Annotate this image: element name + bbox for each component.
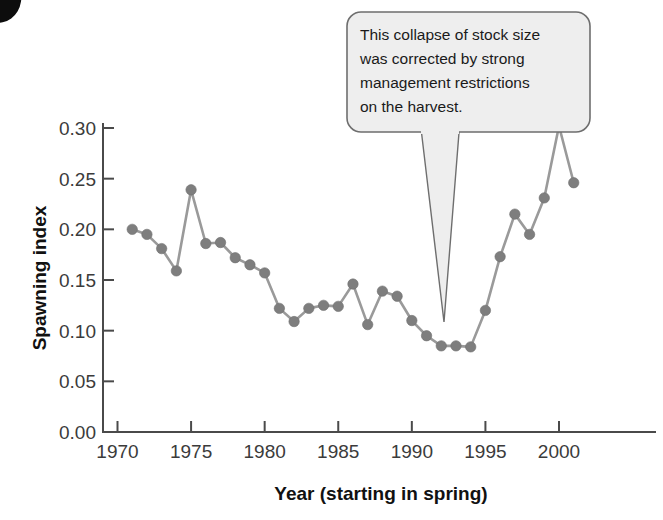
- x-tick-label: 1975: [170, 441, 212, 462]
- y-tick-label: 0.00: [59, 422, 96, 443]
- data-point: [156, 243, 166, 253]
- data-point: [171, 266, 181, 276]
- callout-tail: [420, 120, 460, 322]
- data-point: [407, 315, 417, 325]
- data-point: [377, 286, 387, 296]
- x-axis-tick-labels: 1970197519801985199019952000: [96, 441, 580, 462]
- data-point: [318, 300, 328, 310]
- data-series-markers: [127, 121, 579, 352]
- data-point: [421, 331, 431, 341]
- data-point: [259, 268, 269, 278]
- data-point: [451, 341, 461, 351]
- x-tick-label: 2000: [538, 441, 580, 462]
- y-axis-tick-labels: 0.000.050.100.150.200.250.30: [59, 118, 96, 443]
- data-point: [466, 342, 476, 352]
- data-point: [480, 305, 490, 315]
- x-tick-label: 1970: [96, 441, 138, 462]
- data-point: [348, 279, 358, 289]
- data-point: [362, 319, 372, 329]
- data-point: [274, 303, 284, 313]
- data-point: [569, 178, 579, 188]
- data-point: [524, 229, 534, 239]
- data-series-line: [132, 126, 573, 347]
- x-tick-label: 1995: [464, 441, 506, 462]
- data-point: [289, 316, 299, 326]
- x-tick-label: 1990: [391, 441, 433, 462]
- callout-text-line: was corrected by strong: [359, 50, 525, 67]
- line-chart: 0.000.050.100.150.200.250.30 19701975198…: [0, 0, 663, 520]
- data-point: [304, 303, 314, 313]
- x-tick-label: 1980: [244, 441, 286, 462]
- x-axis-title: Year (starting in spring): [274, 483, 487, 504]
- data-point: [333, 301, 343, 311]
- data-point: [186, 185, 196, 195]
- x-axis-ticks: [118, 421, 560, 432]
- callout-text-line: This collapse of stock size: [360, 26, 540, 43]
- callout-text-line: on the harvest.: [360, 98, 463, 115]
- y-tick-label: 0.15: [59, 270, 96, 291]
- data-point: [539, 193, 549, 203]
- data-point: [215, 237, 225, 247]
- data-point: [142, 229, 152, 239]
- data-point: [392, 291, 402, 301]
- data-point: [436, 341, 446, 351]
- y-axis-title: Spawning index: [29, 205, 50, 350]
- callout-text-line: management restrictions: [360, 74, 530, 91]
- data-point: [127, 224, 137, 234]
- chart-axes: [103, 124, 655, 432]
- data-point: [201, 238, 211, 248]
- y-tick-label: 0.30: [59, 118, 96, 139]
- y-tick-label: 0.25: [59, 169, 96, 190]
- y-tick-label: 0.20: [59, 219, 96, 240]
- data-point: [230, 253, 240, 263]
- data-point: [510, 209, 520, 219]
- callout-tail-joint-mask: [421, 126, 459, 134]
- y-tick-label: 0.05: [59, 371, 96, 392]
- y-tick-label: 0.10: [59, 321, 96, 342]
- figure-root: 0.000.050.100.150.200.250.30 19701975198…: [0, 0, 663, 520]
- x-tick-label: 1985: [317, 441, 359, 462]
- data-point: [245, 260, 255, 270]
- y-axis-ticks: [103, 128, 114, 432]
- data-point: [495, 251, 505, 261]
